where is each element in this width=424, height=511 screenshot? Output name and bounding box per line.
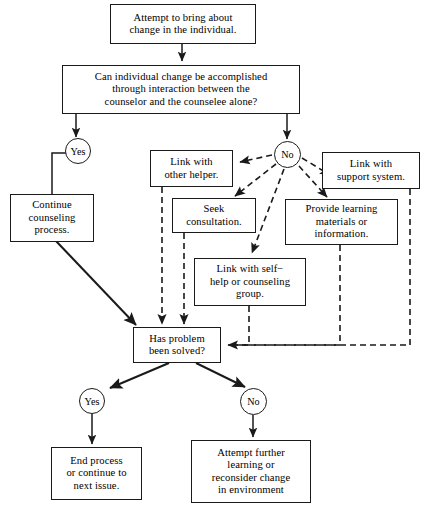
node-no1[interactable]: No	[274, 141, 301, 168]
edge-continue-to-question2	[56, 241, 136, 325]
node-continue-label: Continuecounselingprocess.	[26, 199, 79, 237]
node-support-label: Link withsupport system.	[334, 158, 408, 183]
node-yes2-label: Yes	[85, 396, 100, 407]
edge-no1-to-consultation	[235, 164, 276, 196]
node-yes1-label: Yes	[71, 146, 86, 157]
node-support[interactable]: Link withsupport system.	[322, 152, 420, 189]
edge-question2-to-yes2	[110, 363, 169, 388]
node-materials[interactable]: Provide learningmaterials orinformation.	[285, 199, 398, 245]
node-question1-label: Can individual change be accomplishedthr…	[92, 71, 271, 109]
edge-no1-to-selfhelp	[252, 169, 284, 253]
node-end-label: End processor continue tonext issue.	[63, 455, 129, 493]
node-yes1[interactable]: Yes	[65, 138, 91, 164]
node-materials-label: Provide learningmaterials orinformation.	[303, 203, 381, 241]
node-start[interactable]: Attempt to bring aboutchange in the indi…	[110, 4, 256, 44]
node-further[interactable]: Attempt furtherlearning orreconsider cha…	[191, 440, 311, 503]
node-consultation-label: Seekconsultation.	[183, 203, 245, 228]
node-selfhelp[interactable]: Link with self−help or counselinggroup.	[194, 258, 306, 306]
node-question1[interactable]: Can individual change be accomplishedthr…	[62, 65, 300, 114]
node-other-helper-label: Link withother helper.	[161, 156, 221, 181]
node-selfhelp-label: Link with self−help or counselinggroup.	[207, 263, 293, 301]
node-question2[interactable]: Has problembeen solved?	[133, 327, 221, 363]
node-other-helper[interactable]: Link withother helper.	[150, 150, 233, 187]
edge-yes1-to-continue	[52, 153, 67, 194]
edge-selfhelp-to-question2	[228, 306, 249, 345]
node-further-label: Attempt furtherlearning orreconsider cha…	[209, 447, 293, 497]
node-end[interactable]: End processor continue tonext issue.	[51, 447, 142, 500]
edge-no1-to-other-helper	[240, 155, 272, 162]
node-question2-label: Has problembeen solved?	[146, 333, 208, 358]
node-yes2[interactable]: Yes	[79, 388, 105, 414]
node-no1-label: No	[281, 149, 293, 160]
node-continue[interactable]: Continuecounselingprocess.	[10, 194, 94, 242]
edge-question2-to-no2	[196, 363, 245, 387]
node-consultation[interactable]: Seekconsultation.	[172, 198, 256, 233]
node-no2[interactable]: No	[240, 388, 267, 415]
node-start-label: Attempt to bring aboutchange in the indi…	[126, 12, 239, 37]
node-no2-label: No	[247, 396, 259, 407]
